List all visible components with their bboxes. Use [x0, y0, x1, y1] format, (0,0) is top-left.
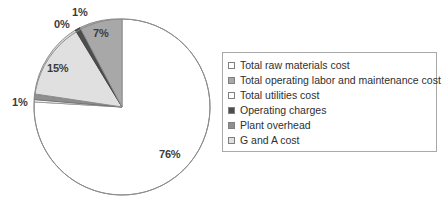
chart-legend: Total raw materials cost Total operating…: [222, 52, 437, 152]
legend-swatch-operating-charges: [228, 107, 235, 114]
legend-label-g-and-a: G and A cost: [240, 135, 300, 146]
legend-item-g-and-a: G and A cost: [228, 133, 436, 148]
pie-label-operating-charges: 1%: [72, 6, 88, 18]
legend-item-raw-materials: Total raw materials cost: [228, 58, 436, 73]
legend-swatch-g-and-a: [228, 137, 235, 144]
pie-label-raw-materials: 76%: [159, 148, 180, 160]
legend-label-raw-materials: Total raw materials cost: [240, 60, 350, 71]
pie-label-operating-labor: 7%: [93, 27, 109, 39]
legend-swatch-utilities: [228, 92, 235, 99]
legend-swatch-raw-materials: [228, 62, 235, 69]
pie-label-g-and-a: 15%: [47, 62, 68, 74]
pie-label-plant-overhead: 1%: [12, 96, 28, 108]
legend-swatch-operating-labor: [228, 77, 235, 84]
pie-chart-figure: 76% 7% 1% 0% 15% 1% Total raw materials …: [0, 0, 443, 207]
legend-item-operating-labor: Total operating labor and maintenance co…: [228, 73, 436, 88]
legend-item-plant-overhead: Plant overhead: [228, 118, 436, 133]
legend-label-plant-overhead: Plant overhead: [240, 120, 311, 131]
legend-swatch-plant-overhead: [228, 122, 235, 129]
legend-label-utilities: Total utilities cost: [240, 90, 319, 101]
legend-item-operating-charges: Operating charges: [228, 103, 436, 118]
legend-label-operating-charges: Operating charges: [240, 105, 326, 116]
legend-item-utilities: Total utilities cost: [228, 88, 436, 103]
legend-label-operating-labor: Total operating labor and maintenance co…: [240, 75, 441, 86]
pie-label-utilities: 0%: [54, 18, 70, 30]
